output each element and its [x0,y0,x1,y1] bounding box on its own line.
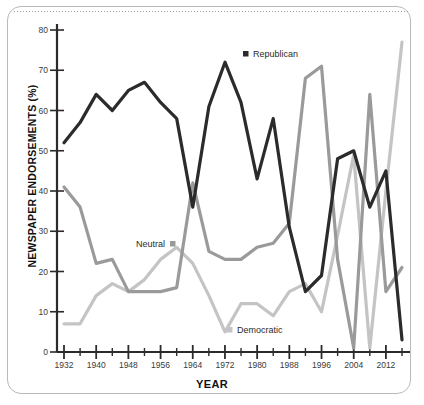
x-tick-1940: 1940 [87,360,106,370]
x-tick-1932: 1932 [55,360,74,370]
x-tick-1948: 1948 [119,360,138,370]
series-line-republican [64,62,402,340]
legend-label: Democratic [237,325,283,335]
x-tick-1988: 1988 [280,360,299,370]
legend-swatch-icon [170,241,176,247]
x-tick-2012: 2012 [376,360,395,370]
x-tick-1964: 1964 [183,360,202,370]
legend-label: Republican [253,49,298,59]
y-tick-40: 40 [39,186,49,196]
legend-item-republican: Republican [243,49,298,59]
y-axis-tick-labels: 01020304050607080 [39,25,49,357]
x-tick-1972: 1972 [215,360,234,370]
y-tick-60: 60 [39,106,49,116]
x-tick-2004: 2004 [344,360,363,370]
legend-label: Neutral [136,239,165,249]
y-tick-80: 80 [39,25,49,35]
x-axis-tick-labels: 1932194019481956196419721980198819962004… [55,360,396,370]
series-polylines [64,42,402,348]
x-tick-1956: 1956 [151,360,170,370]
legend-item-democratic: Democratic [227,325,283,335]
x-tick-1996: 1996 [312,360,331,370]
legend-swatch-icon [227,327,233,333]
y-axis-title: NEWSPAPER ENDORSEMENTS (%) [26,66,38,286]
y-tick-50: 50 [39,146,49,156]
y-tick-70: 70 [39,65,49,75]
x-tick-1980: 1980 [248,360,267,370]
y-tick-30: 30 [39,226,49,236]
x-axis-title: YEAR [0,378,424,390]
legend-item-neutral: Neutral [136,239,176,249]
series-line-democratic [64,42,402,348]
y-tick-10: 10 [39,307,49,317]
chart-figure: 01020304050607080 1932194019481956196419… [0,0,424,405]
legend-swatch-icon [243,51,249,57]
y-tick-0: 0 [43,347,48,357]
y-tick-20: 20 [39,267,49,277]
chart-svg: 01020304050607080 1932194019481956196419… [0,0,424,405]
